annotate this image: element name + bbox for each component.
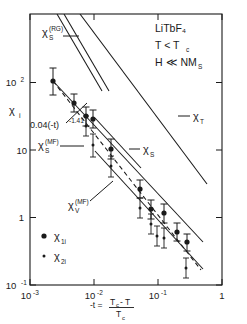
y-tick-label-mantissa: 10 [6,280,17,291]
annotation-condition-field: H ≪ NM S [155,56,203,70]
data-point [90,116,95,121]
curve-label-sub: S [49,34,54,41]
legend-marker-small-dot [43,255,46,258]
data-point [108,146,113,151]
data-point [184,239,189,244]
x-axis-title-denominator-sub: c [122,315,125,321]
y-axis-title-base: χ [9,104,15,116]
chart-background [0,0,247,324]
figure-container: 10 -1 1 10 10 2 χ i 10 -3 10 -2 10 -1 1 … [0,0,247,324]
y-tick-label-1: 1 [19,212,24,223]
x-tick-label-mantissa: 10 [21,290,32,301]
curve-label-base: χ [143,143,149,155]
legend-label-base: χ [54,250,60,262]
annotation-material: LiTbF₄ [155,22,186,34]
condition-field-label: H ≪ NM [155,56,197,68]
data-point [139,207,142,210]
legend-marker-filled-circle [41,233,46,238]
curve-label-base: χ [42,26,48,38]
material-label: LiTbF₄ [155,22,186,34]
curve-label-sup: (MF) [45,138,59,146]
curve-label-sub: V [75,207,80,214]
curve-label-base: χ [68,199,74,211]
legend-label-base: χ [54,230,60,242]
curve-label-sub: T [200,118,204,125]
x-axis-title-lhs: -t = [90,300,103,310]
y-tick-label-exponent: -1 [21,279,27,286]
x-tick-label-exponent: -1 [161,289,167,296]
data-point [92,144,95,147]
chart-svg: 10 -1 1 10 10 2 χ i 10 -3 10 -2 10 -1 1 … [0,0,247,324]
x-tick-label-exponent: -3 [33,289,39,296]
power-law-label: 0.04(-t) [30,120,59,130]
y-tick-label-mantissa: 10 [6,77,17,88]
data-point [161,210,166,215]
data-point [150,223,153,226]
x-tick-label-exponent: -2 [97,289,103,296]
x-tick-label-1: 1 [219,290,224,301]
x-axis-title-denominator: T [116,309,121,319]
data-point [185,267,188,270]
x-axis-title-numerator-rest: - T [120,297,130,307]
curve-label-sub: S [45,147,50,154]
data-point [163,237,166,240]
data-point [110,165,113,168]
data-point [85,125,88,128]
legend-label-sub: 1i [61,238,66,245]
curve-label-sub: S [150,151,155,158]
data-point [71,100,76,105]
condition-field-sub: S [198,63,203,70]
data-point [156,235,159,238]
curve-label-base: χ [38,139,44,151]
y-tick-label-exponent: 2 [21,76,25,83]
curve-label-sup: (MF) [75,198,89,206]
data-point [50,78,55,83]
x-tick-label-mantissa: 10 [149,290,160,301]
data-point [137,186,142,191]
data-point [148,206,153,211]
curve-label-sup: (RG) [49,25,63,33]
curve-label-base: χ [193,110,199,122]
condition-temp-label: T < T [155,39,180,51]
data-point [174,229,179,234]
y-tick-label-10: 10 [16,145,27,156]
legend-label-sub: 2i [61,258,66,265]
x-axis-title-numerator: T [110,297,115,307]
